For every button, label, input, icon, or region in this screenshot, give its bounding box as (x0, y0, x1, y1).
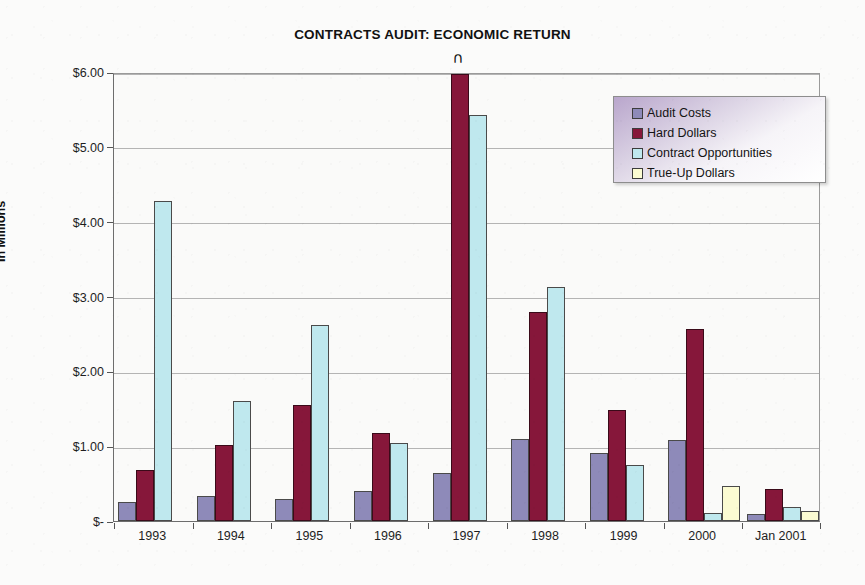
y-axis-tick-label: $5.00 (34, 141, 104, 155)
x-axis-tick-label: 1997 (427, 529, 506, 543)
bar-1997-series-0 (433, 473, 451, 521)
bar-2000-series-0 (668, 440, 686, 521)
chart-legend[interactable]: Audit CostsHard DollarsContract Opportun… (613, 96, 826, 183)
legend-label: Audit Costs (647, 106, 711, 120)
y-axis-tick-label: $4.00 (34, 216, 104, 230)
bar-jan-2001-series-2 (783, 507, 801, 521)
x-axis-tick-label: 1995 (270, 529, 349, 543)
bar-1999-series-0 (590, 453, 608, 521)
bar-2000-series-3 (722, 486, 740, 521)
bar-1994-series-2 (233, 401, 251, 521)
bar-1995-series-2 (311, 325, 329, 521)
x-axis-tick-label: 1999 (584, 529, 663, 543)
y-axis-tick-label: $1.00 (34, 440, 104, 454)
bar-1998-series-1 (529, 312, 547, 521)
bar-1996-series-1 (372, 433, 390, 521)
legend-swatch-icon (632, 148, 643, 159)
bar-1996-series-2 (390, 443, 408, 521)
bar-1994-series-1 (215, 445, 233, 521)
x-axis-tick-label: 1998 (506, 529, 585, 543)
bar-2000-series-1 (686, 329, 704, 521)
legend-item-audit-costs[interactable]: Audit Costs (632, 103, 817, 123)
bar-1999-series-2 (626, 465, 644, 521)
legend-item-contract-opportunities[interactable]: Contract Opportunities (632, 143, 817, 163)
bar-1998-series-2 (547, 287, 565, 521)
bar-2000-series-2 (704, 513, 722, 521)
y-axis-tick-label: $2.00 (34, 365, 104, 379)
bar-1997-series-2 (469, 115, 487, 521)
x-axis-tick-mark (820, 523, 821, 529)
legend-swatch-icon (632, 108, 643, 119)
x-axis-tick-label: 1996 (349, 529, 428, 543)
bar-1993-series-2 (154, 201, 172, 521)
bar-1997-series-1 (451, 74, 469, 522)
legend-label: Contract Opportunities (647, 146, 772, 160)
bar-jan-2001-series-0 (747, 514, 765, 521)
bar-1995-series-1 (293, 405, 311, 521)
y-axis-tick-label: $- (34, 515, 104, 529)
legend-swatch-icon (632, 128, 643, 139)
legend-swatch-icon (632, 168, 643, 179)
x-axis-tick-label: 1994 (192, 529, 271, 543)
bar-1993-series-1 (136, 470, 154, 521)
bar-1998-series-0 (511, 439, 529, 521)
y-axis-tick-label: $3.00 (34, 291, 104, 305)
legend-item-hard-dollars[interactable]: Hard Dollars (632, 123, 817, 143)
x-axis-tick-label: 1993 (113, 529, 192, 543)
legend-label: True-Up Dollars (647, 166, 735, 180)
legend-label: Hard Dollars (647, 126, 716, 140)
bar-1996-series-0 (354, 491, 372, 521)
overflow-arch-marker: ∩ (453, 51, 464, 66)
bar-1995-series-0 (275, 499, 293, 521)
bar-jan-2001-series-3 (801, 511, 819, 521)
bar-jan-2001-series-1 (765, 489, 783, 521)
bar-1993-series-0 (118, 502, 136, 521)
x-axis-tick-label: 2000 (663, 529, 742, 543)
bar-1999-series-1 (608, 410, 626, 522)
legend-item-true-up-dollars[interactable]: True-Up Dollars (632, 163, 817, 183)
y-axis-tick-label: $6.00 (34, 66, 104, 80)
bar-1994-series-0 (197, 496, 215, 521)
x-axis-tick-label: Jan 2001 (741, 529, 820, 543)
